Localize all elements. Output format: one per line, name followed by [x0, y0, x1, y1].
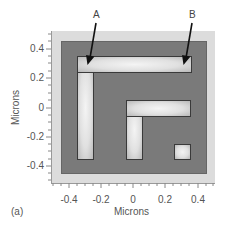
y-axis-title: Microns — [10, 88, 21, 128]
annotation-a-label: A — [93, 9, 100, 20]
x-tick-label: 0.4 — [183, 194, 213, 205]
y-tick-label: 0.2 — [14, 72, 44, 83]
x-tick-label: -0.4 — [54, 194, 84, 205]
x-tick-label: -0.2 — [86, 194, 116, 205]
panel-label: (a) — [11, 206, 23, 217]
x-tick-label: 0 — [118, 194, 148, 205]
x-axis-title: Microns — [114, 206, 149, 217]
y-tick-label: -0.2 — [14, 131, 44, 142]
y-tick-label: -0.4 — [14, 160, 44, 171]
y-tick-label: 0.4 — [14, 43, 44, 54]
x-tick-label: 0.2 — [150, 194, 180, 205]
annotation-b-label: B — [189, 9, 196, 20]
